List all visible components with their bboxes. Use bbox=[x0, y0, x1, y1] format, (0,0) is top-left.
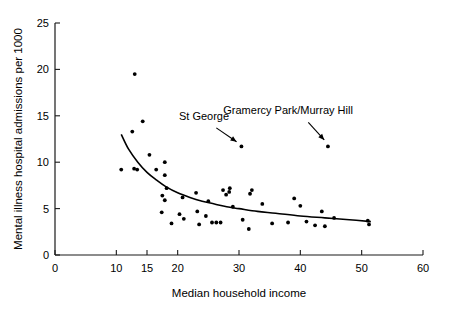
data-point bbox=[292, 196, 296, 200]
data-point bbox=[240, 145, 244, 149]
data-point bbox=[247, 227, 251, 231]
data-point bbox=[320, 209, 324, 213]
data-point bbox=[160, 210, 164, 214]
data-point bbox=[204, 214, 208, 218]
data-point bbox=[332, 216, 336, 220]
data-point bbox=[154, 168, 158, 172]
annotations-group: St GeorgeGramercy Park/Murray Hill bbox=[179, 104, 353, 142]
data-point bbox=[170, 222, 174, 226]
x-tick-label: 30 bbox=[233, 262, 245, 274]
data-point bbox=[181, 196, 185, 200]
x-tick-label: 0 bbox=[52, 262, 58, 274]
data-point bbox=[227, 190, 231, 194]
data-point bbox=[210, 221, 214, 225]
data-point bbox=[130, 130, 134, 134]
y-tick-label: 10 bbox=[37, 156, 49, 168]
data-point bbox=[194, 191, 198, 195]
data-point bbox=[298, 204, 302, 208]
data-point bbox=[228, 186, 232, 190]
data-point bbox=[178, 212, 182, 216]
trend-curve bbox=[121, 134, 371, 221]
data-point bbox=[323, 224, 327, 228]
data-point bbox=[286, 221, 290, 225]
data-point bbox=[163, 173, 167, 177]
y-axis-title: Mental illness hospital admissions per 1… bbox=[12, 28, 24, 250]
data-point bbox=[260, 202, 264, 206]
y-axis-ticks: 0510152025 bbox=[37, 17, 60, 261]
annotation-label: Gramercy Park/Murray Hill bbox=[223, 104, 353, 116]
annotation-label: St George bbox=[179, 110, 229, 122]
chart-figure: 010152030405060 0510152025 St GeorgeGram… bbox=[0, 0, 457, 318]
data-point bbox=[182, 217, 186, 221]
y-tick-label: 20 bbox=[37, 63, 49, 75]
data-point bbox=[270, 222, 274, 226]
data-point bbox=[119, 168, 123, 172]
data-point bbox=[141, 119, 145, 123]
data-point bbox=[148, 153, 152, 157]
x-tick-label: 15 bbox=[141, 262, 153, 274]
data-point bbox=[224, 193, 228, 197]
data-point bbox=[219, 221, 223, 225]
data-point bbox=[133, 72, 137, 76]
y-tick-label: 15 bbox=[37, 110, 49, 122]
data-point bbox=[231, 205, 235, 209]
data-point bbox=[250, 188, 254, 192]
y-tick-label: 0 bbox=[43, 249, 49, 261]
data-point bbox=[195, 209, 199, 213]
trend-curve-group bbox=[121, 134, 371, 221]
x-tick-label: 50 bbox=[356, 262, 368, 274]
x-tick-label: 10 bbox=[110, 262, 122, 274]
data-point bbox=[248, 192, 252, 196]
data-points-group bbox=[119, 72, 371, 231]
data-point bbox=[206, 199, 210, 203]
annotation-arrowhead bbox=[230, 136, 236, 142]
data-point bbox=[221, 188, 225, 192]
data-point bbox=[163, 198, 167, 202]
x-axis-ticks: 010152030405060 bbox=[52, 250, 429, 274]
data-point bbox=[241, 218, 245, 222]
data-point bbox=[214, 221, 218, 225]
data-point bbox=[313, 223, 317, 227]
data-point bbox=[367, 222, 371, 226]
y-tick-label: 25 bbox=[37, 17, 49, 29]
data-point bbox=[165, 186, 169, 190]
scatter-plot-svg: 010152030405060 0510152025 St GeorgeGram… bbox=[0, 0, 457, 318]
data-point bbox=[197, 222, 201, 226]
data-point bbox=[163, 160, 167, 164]
data-point bbox=[135, 168, 139, 172]
data-point bbox=[160, 194, 164, 198]
data-point bbox=[366, 219, 370, 223]
data-point bbox=[305, 220, 309, 224]
y-tick-label: 5 bbox=[43, 203, 49, 215]
x-axis-title: Median household income bbox=[172, 287, 306, 299]
x-tick-label: 60 bbox=[417, 262, 429, 274]
x-tick-label: 20 bbox=[172, 262, 184, 274]
x-tick-label: 40 bbox=[294, 262, 306, 274]
data-point bbox=[326, 145, 330, 149]
